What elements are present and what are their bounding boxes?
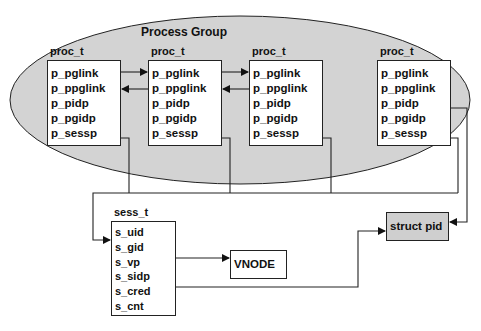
proc-title: proc_t xyxy=(252,46,286,57)
field-p-sessp: p_sessp xyxy=(152,126,206,141)
field-p-pglink: p_pglink xyxy=(51,66,105,81)
struct-pid-label: struct pid xyxy=(390,221,442,233)
field-p-pidp: p_pidp xyxy=(51,96,105,111)
field-p-pgidp: p_pgidp xyxy=(152,111,206,126)
field-p-sessp: p_sessp xyxy=(51,126,105,141)
field-p-ppglink: p_ppglink xyxy=(253,81,307,96)
proc-title: proc_t xyxy=(151,46,185,57)
field-p-ppglink: p_ppglink xyxy=(381,81,435,96)
proc-box-4: p_pglink p_ppglink p_pidp p_pgidp p_sess… xyxy=(377,60,451,146)
field-p-pidp: p_pidp xyxy=(253,96,307,111)
field-p-pglink: p_pglink xyxy=(152,66,206,81)
field-p-pglink: p_pglink xyxy=(381,66,435,81)
field-p-ppglink: p_ppglink xyxy=(152,81,206,96)
proc-title: proc_t xyxy=(380,46,414,57)
field-p-pidp: p_pidp xyxy=(381,96,435,111)
field-p-pgidp: p_pgidp xyxy=(381,111,435,126)
field-s-gid: s_gid xyxy=(115,240,150,255)
process-group-label: Process Group xyxy=(141,26,227,38)
vnode-label: VNODE xyxy=(234,259,275,271)
field-s-vp: s_vp xyxy=(115,255,150,270)
field-p-pglink: p_pglink xyxy=(253,66,307,81)
proc-box-2: p_pglink p_ppglink p_pidp p_pgidp p_sess… xyxy=(148,60,222,146)
proc-box-3: p_pglink p_ppglink p_pidp p_pgidp p_sess… xyxy=(249,60,323,146)
sess-box: s_uid s_gid s_vp s_sidp s_cred s_cnt xyxy=(111,221,176,316)
field-s-cred: s_cred xyxy=(115,284,150,299)
field-s-uid: s_uid xyxy=(115,225,150,240)
field-s-cnt: s_cnt xyxy=(115,299,150,314)
field-p-pgidp: p_pgidp xyxy=(253,111,307,126)
struct-pid-box: struct pid xyxy=(386,212,449,241)
field-p-sessp: p_sessp xyxy=(381,126,435,141)
field-p-ppglink: p_ppglink xyxy=(51,81,105,96)
sess-title: sess_t xyxy=(114,207,148,218)
field-p-sessp: p_sessp xyxy=(253,126,307,141)
proc-box-1: p_pglink p_ppglink p_pidp p_pgidp p_sess… xyxy=(47,60,121,146)
vnode-box: VNODE xyxy=(230,250,287,279)
field-s-sidp: s_sidp xyxy=(115,269,150,284)
proc-title: proc_t xyxy=(50,46,84,57)
field-p-pgidp: p_pgidp xyxy=(51,111,105,126)
field-p-pidp: p_pidp xyxy=(152,96,206,111)
